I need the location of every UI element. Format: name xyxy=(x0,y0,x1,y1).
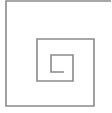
spiral-line xyxy=(6,1,111,106)
square-spiral-drawing xyxy=(0,0,112,113)
spiral-diagram-canvas xyxy=(0,0,112,113)
